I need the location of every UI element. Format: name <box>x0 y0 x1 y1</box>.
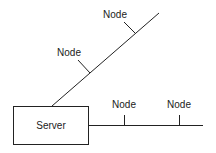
node-label-diagonal-2: Node <box>103 9 127 20</box>
diagonal-bus-line <box>52 13 159 106</box>
server-label: Server <box>36 120 66 131</box>
node-label-horizontal-2: Node <box>167 99 191 110</box>
node-label-diagonal-1: Node <box>57 47 81 58</box>
node-connector-diagonal-2 <box>124 22 135 33</box>
node-connector-diagonal-1 <box>78 60 90 73</box>
network-diagram: Server Node Node Node Node <box>0 0 216 153</box>
node-label-horizontal-1: Node <box>112 99 136 110</box>
